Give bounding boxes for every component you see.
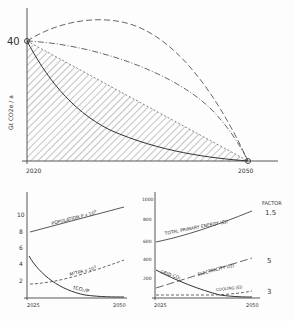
top-x-tick-2050: 2050 [238, 167, 253, 174]
br-y-tick-1000: 1000 [142, 197, 154, 202]
top-chart: 40 Gt CO2e / a 2020 2050 [7, 8, 278, 174]
sketch-charts: 40 Gt CO2e / a 2020 2050 10 8 6 4 2 2025… [0, 0, 294, 321]
bl-x-tick-2050: 2050 [113, 302, 126, 308]
br-y-tick-600: 600 [143, 239, 152, 244]
cooling-line [156, 291, 252, 295]
factor-cooling: 3 [267, 288, 271, 296]
cooling-label: COOLING (EJ) [216, 284, 244, 292]
factor-electricity: 5 [267, 257, 271, 265]
electricity-label: ELECTRICITY (EJ) [197, 262, 235, 277]
total-primary-energy-label: TOTAL PRIMARY ENERGY (EJ) [163, 219, 228, 236]
bottom-right-chart: 1000 800 600 400 200 2025 2050 TOTAL PRI… [142, 192, 282, 308]
grid-co2-label: GRID CO₂ [160, 269, 182, 280]
bl-y-tick-6: 6 [19, 244, 23, 251]
factor-tpe: 1.5 [265, 209, 276, 217]
br-x-tick-2050: 2050 [246, 302, 259, 308]
br-y-tick-400: 400 [143, 257, 152, 262]
top-y-axis-label: Gt CO2e / a [7, 95, 14, 130]
factor-heading: FACTOR [262, 200, 282, 206]
br-x-tick-2025: 2025 [154, 302, 167, 308]
bl-y-tick-2: 2 [19, 277, 23, 284]
m2-tpa-label: M²TPA x 103 [69, 265, 97, 277]
bl-x-tick-2025: 2025 [27, 302, 40, 308]
bottom-left-chart: 10 8 6 4 2 2025 2050 POPULATION P x 109 … [17, 192, 127, 308]
br-y-tick-200: 200 [143, 276, 152, 281]
bl-y-tick-4: 4 [19, 260, 23, 267]
bl-y-tick-8: 8 [19, 228, 23, 235]
population-label: POPULATION P x 109 [51, 209, 97, 226]
top-y-tick-40: 40 [7, 36, 20, 47]
bl-y-tick-10: 10 [17, 211, 25, 218]
br-y-tick-800: 800 [143, 217, 152, 222]
top-x-tick-2020: 2020 [26, 167, 41, 174]
